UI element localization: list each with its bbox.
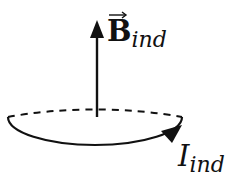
loop-back-dashed [8, 109, 182, 117]
current-label: Iind [178, 142, 225, 171]
field-subscript: ind [132, 27, 167, 52]
vector-arrow-icon [108, 11, 128, 19]
field-arrowhead-icon [90, 20, 104, 38]
current-symbol: I [178, 139, 189, 173]
field-symbol: B [107, 14, 132, 48]
loop-front-solid [8, 117, 182, 145]
current-subscript: ind [189, 152, 224, 177]
field-label: B ind [107, 17, 167, 46]
